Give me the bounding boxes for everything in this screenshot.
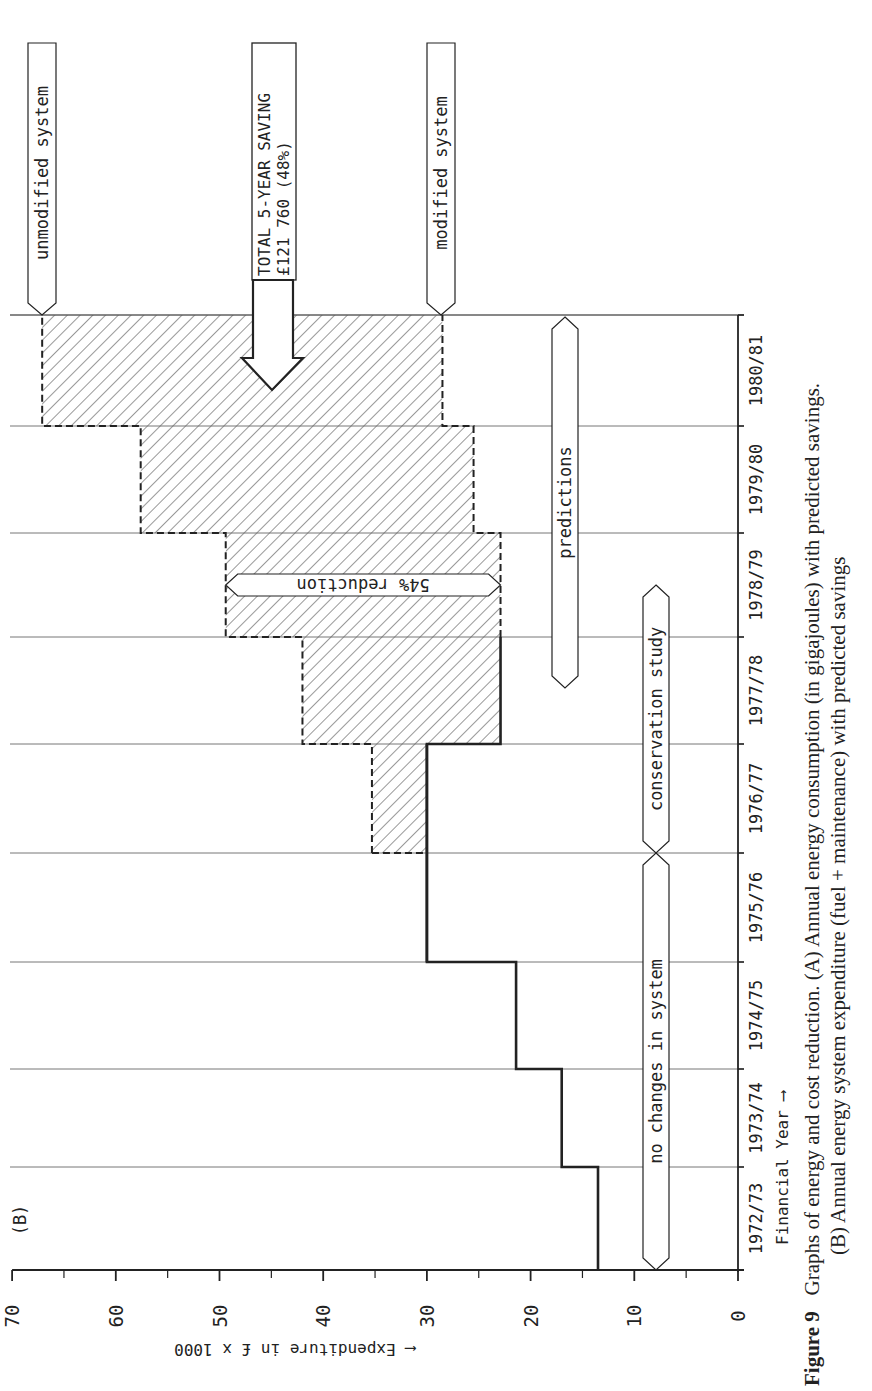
year-axis-label: 1972/73 bbox=[746, 1183, 766, 1255]
expenditure-step-chart: 0102030405060701972/731973/741974/751975… bbox=[0, 0, 872, 1391]
predictions-label: predictions bbox=[555, 446, 575, 559]
total-saving-title: TOTAL 5-YEAR SAVING bbox=[255, 93, 274, 276]
value-axis-title: ⟵ Expenditure in £ x 1000 bbox=[174, 1340, 416, 1359]
year-axis-label: 1973/74 bbox=[746, 1082, 766, 1154]
value-axis-label: 70 bbox=[1, 1305, 23, 1328]
value-axis-label: 50 bbox=[209, 1305, 231, 1328]
caption-text-2: (B) Annual energy system expenditure (fu… bbox=[826, 557, 850, 1255]
year-axis-label: 1979/80 bbox=[746, 444, 766, 516]
year-axis-title: Financial Year ⟶ bbox=[773, 1090, 792, 1245]
figure-caption-line2: (B) Annual energy system expenditure (fu… bbox=[826, 557, 851, 1255]
modified-system-label: modified system bbox=[431, 96, 451, 250]
year-axis-label: 1974/75 bbox=[746, 980, 766, 1052]
caption-text-1: Graphs of energy and cost reduction. (A)… bbox=[800, 383, 824, 1296]
value-axis-label: 0 bbox=[727, 1310, 749, 1321]
total-saving-amount: £121 760 (48%) bbox=[274, 141, 293, 276]
year-axis-label: 1980/81 bbox=[746, 335, 766, 407]
year-axis-label: 1978/79 bbox=[746, 549, 766, 621]
panel-label: (B) bbox=[10, 1205, 30, 1236]
year-axis-label: 1976/77 bbox=[746, 763, 766, 835]
conservation-study-label: conservation study bbox=[646, 627, 666, 811]
year-axis-label: 1975/76 bbox=[746, 872, 766, 944]
value-axis-label: 30 bbox=[416, 1305, 438, 1328]
reduction-54-label: 54% reduction bbox=[297, 575, 430, 595]
year-axis-label: 1977/78 bbox=[746, 655, 766, 727]
value-axis-label: 60 bbox=[105, 1305, 127, 1328]
value-axis-label: 10 bbox=[623, 1305, 645, 1328]
actual-expenditure-line bbox=[427, 744, 598, 1270]
value-axis-label: 20 bbox=[520, 1305, 542, 1328]
figure-caption-line1: Figure 9 Graphs of energy and cost reduc… bbox=[800, 383, 825, 1386]
no-changes-in-system-label: no changes in system bbox=[646, 959, 666, 1164]
figure-number: Figure 9 bbox=[800, 1311, 824, 1386]
value-axis-label: 40 bbox=[312, 1305, 334, 1328]
unmodified-system-label: unmodified system bbox=[32, 86, 52, 260]
